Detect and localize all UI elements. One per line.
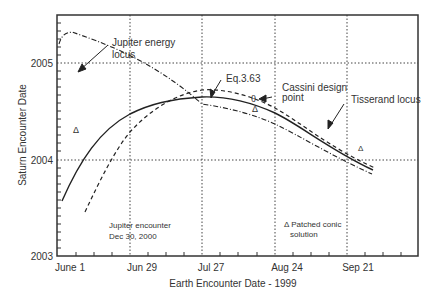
eq-3-63-annotation: Eq.3.63: [226, 73, 261, 84]
eq-3-63-curve: [62, 97, 373, 201]
y-tick-2003: 2003: [31, 251, 54, 262]
y-tick-2005: 2005: [31, 58, 54, 69]
jupiter-encounter-note: Dec 30, 2000: [109, 232, 157, 241]
y-axis-label: Saturn Encounter Date: [17, 84, 28, 186]
jupiter-encounter-note: Jupiter encounter: [109, 221, 171, 230]
jupiter-energy-annotation: Jupiter energy: [112, 37, 175, 48]
x-tick-aug24: Aug 24: [271, 262, 303, 273]
x-tick-jun29: Jun 29: [127, 262, 157, 273]
x-tick-sep21: Sep 21: [342, 262, 374, 273]
x-axis-label: Earth Encounter Date - 1999: [169, 278, 297, 289]
cassini-design-annotation: point: [282, 92, 304, 103]
tisserand-locus-curve: [85, 90, 375, 212]
patched-conic-marker: Δ: [358, 144, 364, 153]
patched-conic-marker: Δ: [73, 125, 79, 135]
patched-conic-note: Δ Patched conic: [284, 220, 341, 229]
x-tick-jul27: Jul 27: [198, 262, 225, 273]
tisserand-annotation: Tisserand locus: [351, 94, 421, 105]
x-tick-jun1: June 1: [55, 262, 85, 273]
patched-conic-marker: Δ: [252, 104, 258, 114]
chart: θ Δ Δ Δ Jupiter energy locus Eq.3.63 Cas…: [0, 0, 433, 300]
jupiter-energy-locus-curve: [59, 32, 372, 174]
y-tick-2004: 2004: [31, 155, 54, 166]
jupiter-energy-annotation: locus: [112, 49, 135, 60]
patched-conic-note: solution: [290, 230, 318, 239]
cassini-design-point-marker: θ: [251, 94, 256, 104]
